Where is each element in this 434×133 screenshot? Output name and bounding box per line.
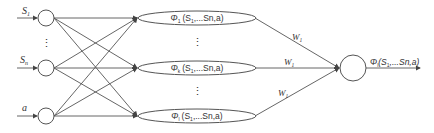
input-hidden-connections xyxy=(54,18,137,116)
output-label: Φl(S1,...Sn,a) xyxy=(370,57,419,68)
weight-label-middle: W1 xyxy=(284,57,295,68)
hidden-ellipsis-bottom: ⋮ xyxy=(192,85,203,97)
input-label-a: a xyxy=(22,102,27,113)
input-label-sn: Sn xyxy=(20,54,28,66)
input-ellipsis: ⋮ xyxy=(41,37,52,49)
input-arrows xyxy=(17,18,37,116)
weight-label-bottom: W1 xyxy=(278,88,289,99)
input-label-s1: S1 xyxy=(22,5,30,17)
hidden-ellipsis-top: ⋮ xyxy=(192,36,203,48)
neural-network-diagram: S1 Sn a ⋮ Φ1(S1,...Sn,a) Φk(S1,...Sn,a) … xyxy=(0,0,434,133)
input-node-sn xyxy=(38,60,54,76)
input-node-s1 xyxy=(38,10,54,26)
input-node-a xyxy=(38,108,54,124)
output-node xyxy=(340,55,366,81)
weight-label-top: W1 xyxy=(292,32,303,43)
